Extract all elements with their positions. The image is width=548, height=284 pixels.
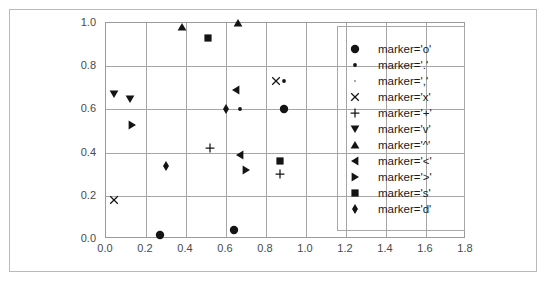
legend-row: marker='+' <box>338 105 464 121</box>
data-point-triangle-left <box>228 82 244 98</box>
gridline-vertical <box>186 23 187 237</box>
legend-glyph <box>347 185 363 201</box>
legend-label: marker='o' <box>372 43 431 55</box>
y-tick-label: 0.4 <box>81 146 96 158</box>
data-point-triangle-up <box>174 19 190 35</box>
legend-marker-square-icon <box>338 185 372 201</box>
data-point-plus <box>202 140 218 156</box>
legend-marker-plus-icon <box>338 105 372 121</box>
figure-canvas: 0.00.20.40.60.81.0 0.00.20.40.60.81.01.2… <box>0 0 548 284</box>
legend-glyph <box>347 153 363 169</box>
data-point-cross-x <box>268 73 284 89</box>
x-tick-label: 1.6 <box>417 242 432 254</box>
x-tick-label: 1.4 <box>377 242 392 254</box>
x-tick-label: 0.4 <box>177 242 192 254</box>
legend-label: marker='x' <box>372 91 431 103</box>
legend-glyph <box>347 57 363 73</box>
legend-row: marker='>' <box>338 169 464 185</box>
gridline-vertical <box>306 23 307 237</box>
legend-row: marker='s' <box>338 185 464 201</box>
legend-label: marker=',' <box>372 75 428 87</box>
legend-glyph <box>347 169 363 185</box>
legend-label: marker='>' <box>372 171 432 183</box>
x-tick-label: 0.0 <box>97 242 112 254</box>
legend-row: marker='^' <box>338 137 464 153</box>
legend-label: marker='d' <box>372 203 431 215</box>
legend-glyph <box>347 137 363 153</box>
gridline-vertical <box>266 23 267 237</box>
legend-marker-triangle-up-icon <box>338 137 372 153</box>
data-point-thin-diamond <box>158 158 174 174</box>
legend-marker-thin-diamond-icon <box>338 201 372 217</box>
x-tick-label: 0.6 <box>217 242 232 254</box>
legend-label: marker='<' <box>372 155 432 167</box>
x-tick-label: 0.8 <box>257 242 272 254</box>
data-point-triangle-right <box>238 162 254 178</box>
x-tick-label: 1.0 <box>297 242 312 254</box>
data-point-triangle-right <box>124 117 140 133</box>
legend-row: marker='<' <box>338 153 464 169</box>
legend-marker-pixel-icon <box>338 73 372 89</box>
legend-row: marker='d' <box>338 201 464 217</box>
legend-label: marker='s' <box>372 187 431 199</box>
data-point-point <box>232 101 248 117</box>
legend-glyph <box>347 121 363 137</box>
legend-row: marker='o' <box>338 41 464 57</box>
data-point-triangle-down <box>106 86 122 102</box>
legend-glyph <box>347 105 363 121</box>
gridline-vertical <box>146 23 147 237</box>
legend-row: marker=',' <box>338 73 464 89</box>
data-point-thin-diamond <box>218 101 234 117</box>
x-tick-label: 1.2 <box>337 242 352 254</box>
legend: marker='o'marker='.'marker=','marker='x'… <box>337 26 465 231</box>
data-point-cross-x <box>106 192 122 208</box>
legend-marker-cross-x-icon <box>338 89 372 105</box>
gridline-vertical <box>226 23 227 237</box>
legend-marker-triangle-left-icon <box>338 153 372 169</box>
y-tick-label: 0.0 <box>81 232 96 244</box>
y-tick-label: 1.0 <box>81 16 96 28</box>
legend-row: marker='.' <box>338 57 464 73</box>
data-point-triangle-up <box>230 15 246 31</box>
data-point-square <box>272 153 288 169</box>
legend-marker-triangle-down-icon <box>338 121 372 137</box>
y-tick-label: 0.2 <box>81 189 96 201</box>
y-tick-label: 0.8 <box>81 59 96 71</box>
legend-glyph <box>347 89 363 105</box>
legend-row: marker='v' <box>338 121 464 137</box>
x-tick-label: 1.8 <box>457 242 472 254</box>
legend-label: marker='.' <box>372 59 428 71</box>
data-point-circle <box>152 227 168 243</box>
legend-label: marker='^' <box>372 139 430 151</box>
y-tick-label: 0.6 <box>81 102 96 114</box>
legend-label: marker='v' <box>372 123 431 135</box>
legend-marker-triangle-right-icon <box>338 169 372 185</box>
legend-marker-point-icon <box>338 57 372 73</box>
data-point-triangle-left <box>232 147 248 163</box>
legend-label: marker='+' <box>372 107 432 119</box>
legend-row: marker='x' <box>338 89 464 105</box>
data-point-triangle-down <box>122 91 138 107</box>
data-point-circle <box>226 222 242 238</box>
legend-glyph <box>347 201 363 217</box>
data-point-circle <box>276 101 292 117</box>
data-point-square <box>200 30 216 46</box>
legend-marker-circle-icon <box>338 41 372 57</box>
x-tick-label: 0.2 <box>137 242 152 254</box>
legend-glyph <box>347 41 363 57</box>
legend-glyph <box>347 73 363 89</box>
